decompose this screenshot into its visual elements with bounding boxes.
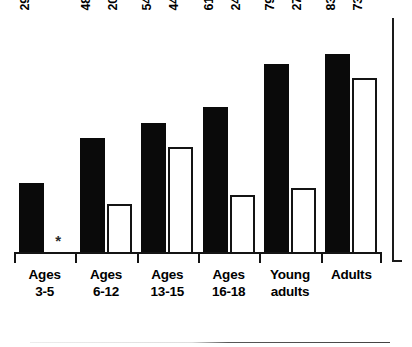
category-label: Adults xyxy=(321,266,382,301)
bar-white: 44%** xyxy=(168,147,193,252)
category-label-line1: Ages xyxy=(151,267,183,282)
category-label-line2: 3-5 xyxy=(14,283,75,300)
bar-value-label: 44%** xyxy=(168,0,181,10)
category-label-line2: 16-18 xyxy=(198,283,259,300)
x-axis-tick xyxy=(259,252,261,263)
bar-black: 29% xyxy=(19,183,44,252)
bar-slot-white: 44%** xyxy=(168,14,193,252)
category-label-line1: Ages xyxy=(29,267,61,282)
bar-value-label: 79% xyxy=(263,0,276,10)
bar-chart: 29%*48%20%54%44%**61%24%79%27%83%73% Age… xyxy=(0,0,412,347)
x-axis-tick xyxy=(198,252,200,263)
bar-value-label: 54% xyxy=(141,0,154,10)
bar-black: 79% xyxy=(264,64,289,252)
x-axis-tick xyxy=(14,252,16,263)
plot-area: 29%*48%20%54%44%**61%24%79%27%83%73% xyxy=(14,14,382,252)
page-rule-artifact xyxy=(30,342,390,343)
bar-white: 24% xyxy=(230,195,255,252)
bar-group: 61%24% xyxy=(198,14,259,252)
bar-slot-white: * xyxy=(46,14,71,252)
bar-white: 73% xyxy=(352,78,377,252)
category-label: Ages13-15 xyxy=(137,266,198,301)
x-axis-tick xyxy=(380,252,382,263)
bar-slot-black: 54% xyxy=(141,14,166,252)
bar-slot-white: 73% xyxy=(352,14,377,252)
bar-group: 29%* xyxy=(14,14,75,252)
figure-frame-corner xyxy=(392,260,402,262)
bar-slot-black: 29% xyxy=(19,14,44,252)
bar-value-label: 27% xyxy=(290,0,303,10)
bar-slot-black: 48% xyxy=(80,14,105,252)
bar-group: 48%20% xyxy=(75,14,136,252)
x-axis-ticks xyxy=(14,252,382,263)
bar-groups: 29%*48%20%54%44%**61%24%79%27%83%73% xyxy=(14,14,382,252)
x-axis-tick xyxy=(75,252,77,263)
bar-white: 20% xyxy=(107,204,132,252)
bar-slot-black: 61% xyxy=(203,14,228,252)
bar-value-label: 29% xyxy=(18,0,31,10)
category-label-line1: Ages xyxy=(213,267,245,282)
bar-black: 83% xyxy=(325,54,350,252)
category-label-line1: Young xyxy=(270,267,310,282)
x-axis-tick xyxy=(137,252,139,263)
category-label-line1: Ages xyxy=(90,267,122,282)
bar-group: 79%27% xyxy=(259,14,320,252)
bar-slot-black: 79% xyxy=(264,14,289,252)
bar-group: 54%44%** xyxy=(137,14,198,252)
x-axis-category-labels: Ages3-5Ages6-12Ages13-15Ages16-18Youngad… xyxy=(14,266,382,301)
bar-black: 48% xyxy=(80,138,105,252)
category-label-line1: Adults xyxy=(331,267,372,282)
bar-value-label: 73% xyxy=(352,0,365,10)
bar-slot-white: 24% xyxy=(230,14,255,252)
category-label-line2: 6-12 xyxy=(75,283,136,300)
missing-data-asterisk: * xyxy=(55,233,61,248)
figure-frame-right-edge xyxy=(392,18,394,262)
bar-value-label: 48% xyxy=(79,0,92,10)
category-label: Ages6-12 xyxy=(75,266,136,301)
category-label: Ages3-5 xyxy=(14,266,75,301)
bar-black: 54% xyxy=(141,123,166,252)
bar-slot-black: 83% xyxy=(325,14,350,252)
category-label-line2: adults xyxy=(259,283,320,300)
bar-value-label: 83% xyxy=(325,0,338,10)
bar-value-label: 24% xyxy=(229,0,242,10)
bar-group: 83%73% xyxy=(321,14,382,252)
x-axis-tick xyxy=(321,252,323,263)
bar-value-label: 20% xyxy=(106,0,119,10)
bar-black: 61% xyxy=(203,107,228,252)
category-label: Ages16-18 xyxy=(198,266,259,301)
category-label: Youngadults xyxy=(259,266,320,301)
bar-value-label: 61% xyxy=(202,0,215,10)
category-label-line2: 13-15 xyxy=(137,283,198,300)
bar-white: 27% xyxy=(291,188,316,252)
bar-slot-white: 20% xyxy=(107,14,132,252)
bar-slot-white: 27% xyxy=(291,14,316,252)
